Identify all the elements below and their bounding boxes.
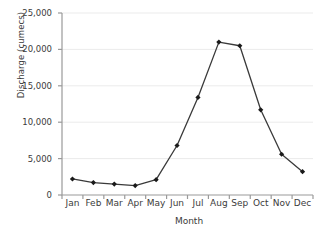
discharge-line-chart: Discharge (cumecs) Month 05,00010,00015,…: [0, 0, 320, 233]
data-line: [72, 42, 302, 185]
data-point-marker: [258, 107, 263, 112]
data-point-marker: [112, 181, 117, 186]
data-point-marker: [216, 40, 221, 45]
data-point-marker: [133, 183, 138, 188]
data-point-marker: [70, 176, 75, 181]
axis-lines: [62, 13, 313, 195]
plot-area: [0, 0, 320, 233]
data-point-marker: [91, 180, 96, 185]
data-point-marker: [195, 95, 200, 100]
data-point-marker: [237, 43, 242, 48]
